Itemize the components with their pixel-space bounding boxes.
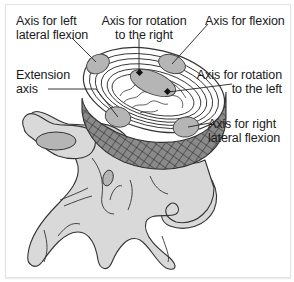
label-axis-flexion: Axis for flexion xyxy=(205,14,285,28)
label-line: Extension xyxy=(16,68,70,82)
label-line: Axis for right xyxy=(208,117,280,131)
label-line: lateral flexion xyxy=(16,28,88,42)
label-axis-rotation-right: Axis for rotation to the right xyxy=(96,14,192,42)
label-line: Axis for rotation xyxy=(96,14,192,28)
label-line: axis xyxy=(16,82,70,96)
label-extension-axis: Extension axis xyxy=(16,68,70,96)
label-line: Axis for left xyxy=(16,14,88,28)
label-line: lateral flexion xyxy=(208,131,280,145)
articular-facet xyxy=(36,132,76,150)
label-line: Axis for flexion xyxy=(205,14,285,28)
label-line: to the right xyxy=(96,28,192,42)
label-axis-right-lateral-flexion: Axis for right lateral flexion xyxy=(208,117,280,145)
label-line: Axis for rotation xyxy=(186,68,282,82)
label-line: to the left xyxy=(186,82,282,96)
label-axis-left-lateral-flexion: Axis for left lateral flexion xyxy=(16,14,88,42)
label-axis-rotation-left: Axis for rotation to the left xyxy=(186,68,282,96)
